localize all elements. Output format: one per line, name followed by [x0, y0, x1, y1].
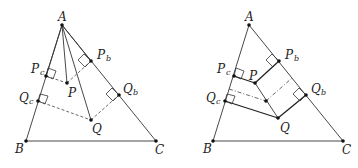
point-pb	[89, 59, 93, 63]
label-q: Q	[280, 121, 290, 135]
label-pc: P	[30, 62, 40, 76]
label-c: C	[155, 143, 164, 157]
label-qc-sub: c	[216, 97, 221, 106]
triangle-abc	[213, 25, 343, 141]
triangle-abc	[26, 25, 156, 141]
label-qb-sub: b	[321, 88, 326, 97]
label-p: P	[67, 86, 77, 100]
label-qc-sub: c	[29, 97, 34, 106]
label-c: C	[342, 143, 351, 157]
label-a: A	[244, 10, 254, 24]
label-pc-sub: c	[40, 68, 45, 77]
segment-apb	[62, 25, 91, 61]
point-qc	[223, 99, 227, 103]
right-figure: A B C P Q P c P b Q c Q b	[202, 10, 351, 157]
label-pb-sub: b	[106, 54, 111, 63]
point-qb	[117, 93, 121, 97]
point-qb	[304, 93, 308, 97]
label-pb: P	[96, 48, 106, 62]
right-angle-pb	[78, 54, 91, 67]
diagram-canvas: A B C P Q P c P b Q c Q b	[0, 0, 358, 168]
label-b: B	[202, 142, 212, 156]
point-b	[24, 139, 28, 143]
label-qb-sub: b	[133, 88, 138, 97]
segment-qc-q	[225, 101, 278, 118]
label-qc: Q	[19, 91, 29, 105]
point-midpoint	[264, 99, 268, 103]
label-pb-sub: b	[294, 54, 299, 63]
label-pc: P	[216, 62, 226, 76]
label-qb: Q	[123, 82, 133, 96]
label-b: B	[14, 142, 24, 156]
point-q	[276, 116, 280, 120]
left-figure: A B C P Q P c P b Q c Q b	[14, 10, 164, 157]
point-pb	[277, 59, 281, 63]
point-p	[65, 81, 69, 85]
label-q: Q	[92, 122, 102, 136]
point-pc	[232, 74, 236, 78]
right-angle-qb	[293, 88, 306, 101]
right-angle-pb	[266, 54, 279, 67]
perp-q-qc	[38, 101, 91, 120]
label-pb: P	[284, 48, 294, 62]
right-angle-qb	[106, 88, 119, 101]
label-qc: Q	[206, 91, 216, 105]
label-p: P	[248, 69, 258, 83]
point-pc	[44, 74, 48, 78]
label-qb: Q	[311, 82, 321, 96]
segment-q-qb	[278, 95, 306, 118]
point-qc	[36, 99, 40, 103]
midline-b	[266, 78, 292, 101]
label-pc-sub: c	[226, 68, 231, 77]
label-a: A	[57, 10, 67, 24]
